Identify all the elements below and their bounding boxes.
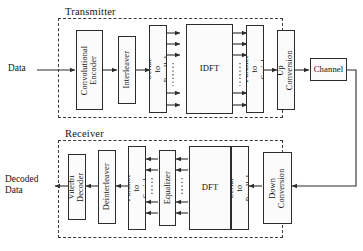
block-serial-to-parallel-tx[interactable]: Serial to Parallel — [149, 25, 167, 113]
block-label: DFT — [202, 183, 219, 192]
block-label: Serial to Parallel — [149, 56, 167, 83]
transmitter-section-label: Transmitter — [63, 6, 118, 17]
block-parallel-to-serial-rx[interactable]: Parallel to Serial — [128, 146, 146, 230]
block-label: Down Conversion — [268, 168, 287, 208]
block-up-conversion[interactable]: Up Conversion — [277, 30, 295, 110]
block-label: Up Conversion — [277, 50, 295, 90]
block-label: Interleaver — [122, 51, 131, 89]
receiver-section-label: Receiver — [63, 128, 106, 139]
block-label: Convolutional Encoder — [80, 45, 99, 94]
block-convolutional-encoder[interactable]: Convolutional Encoder — [76, 30, 103, 110]
block-label: Parallel to Serial — [246, 56, 264, 83]
arrow-channel-to-downconv — [292, 70, 356, 186]
block-down-conversion[interactable]: Down Conversion — [263, 152, 292, 224]
block-serial-to-parallel-rx[interactable]: Serial to Parallel — [231, 146, 249, 230]
block-label: Viterbi Decoder — [68, 172, 86, 201]
output-label: Decoded Data — [5, 174, 38, 196]
block-label: IDFT — [200, 64, 220, 73]
figure-canvas: Transmitter Convolutional Encoder Interl… — [0, 0, 363, 251]
block-channel[interactable]: Channel — [310, 58, 347, 81]
block-deinterleaver[interactable]: Deinterleaver — [98, 150, 116, 224]
block-parallel-to-serial-tx[interactable]: Parallel to Serial — [246, 25, 264, 113]
block-equalizer[interactable]: Equalizer — [159, 150, 176, 226]
block-label: Deinterleaver — [102, 163, 111, 210]
block-idft[interactable]: IDFT — [186, 24, 233, 114]
block-label: Parallel to Serial — [128, 175, 146, 202]
block-label: Equalizer — [163, 171, 172, 204]
block-interleaver[interactable]: Interleaver — [118, 36, 136, 104]
block-viterbi-decoder[interactable]: Viterbi Decoder — [68, 154, 86, 220]
block-label: Channel — [314, 65, 344, 74]
block-dft[interactable]: DFT — [189, 146, 231, 230]
block-label: Serial to Parallel — [231, 175, 249, 202]
input-label: Data — [8, 63, 26, 74]
